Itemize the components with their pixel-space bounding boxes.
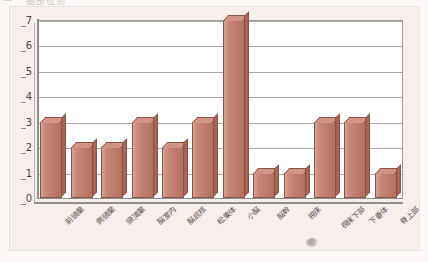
chart-title: 脳部位別 bbox=[26, 0, 66, 7]
bar-side-face bbox=[92, 138, 97, 197]
y-axis-tick-label: 6 bbox=[26, 41, 32, 51]
bar-side-face bbox=[396, 164, 401, 197]
y-axis-tick-label: 0 bbox=[26, 194, 32, 204]
x-axis-label-脳底核: 脳底核 bbox=[186, 206, 207, 226]
y-axis-tick-mark bbox=[21, 128, 26, 129]
title-strip: 脳部位別 bbox=[0, 0, 428, 7]
y-axis-tick-mark bbox=[21, 153, 26, 154]
y-axis-tick-label: 3 bbox=[26, 118, 32, 128]
x-axis-label-頭頂葉: 頭頂葉 bbox=[125, 206, 146, 226]
y-axis-tick-mark bbox=[21, 102, 26, 103]
y-axis-tick-mark bbox=[21, 51, 26, 52]
bar-side-face bbox=[335, 113, 340, 197]
y-axis-tick-mark bbox=[21, 26, 26, 27]
bar-脳幹 bbox=[253, 173, 275, 198]
bar-side-face bbox=[183, 138, 188, 197]
x-axis-label-小脳: 小脳 bbox=[245, 206, 260, 221]
y-axis-tick-mark bbox=[21, 179, 26, 180]
bar-頭頂葉 bbox=[101, 147, 123, 198]
bar-視床下部 bbox=[314, 122, 336, 198]
gridline bbox=[38, 21, 402, 22]
legend-swatch bbox=[4, 0, 12, 1]
y-axis-tick-mark bbox=[21, 77, 26, 78]
bar-前頭葉 bbox=[40, 122, 62, 198]
bar-side-face bbox=[244, 11, 249, 197]
bar-視床 bbox=[284, 173, 306, 198]
gridline bbox=[38, 46, 402, 47]
x-axis-back-line bbox=[37, 198, 403, 199]
gridline bbox=[38, 72, 402, 73]
x-axis-label-視床: 視床 bbox=[306, 206, 321, 221]
x-axis-label-前頭葉: 前頭葉 bbox=[64, 206, 85, 226]
bar-側頭葉 bbox=[71, 147, 93, 198]
plot-area: 01234567 bbox=[38, 20, 403, 198]
x-axis-label-松果体: 松果体 bbox=[216, 206, 237, 226]
bar-side-face bbox=[274, 164, 279, 197]
y-axis-tick-label: 4 bbox=[26, 92, 32, 102]
bar-脳室内 bbox=[132, 122, 154, 198]
y-axis-tick-label: 1 bbox=[26, 169, 32, 179]
x-axis-label-脳室内: 脳室内 bbox=[156, 206, 177, 226]
bar-脳底核 bbox=[162, 147, 184, 198]
y-axis-back-line bbox=[34, 23, 35, 203]
bar-side-face bbox=[305, 164, 310, 197]
gridline bbox=[38, 97, 402, 98]
x-axis-label-下垂体: 下垂体 bbox=[368, 206, 389, 226]
y-axis-tick-mark bbox=[21, 204, 26, 205]
bar-松果体 bbox=[192, 122, 214, 198]
x-axis-label-側頭葉: 側頭葉 bbox=[95, 206, 116, 226]
bar-side-face bbox=[153, 113, 158, 197]
y-axis bbox=[37, 19, 39, 199]
bar-side-face bbox=[122, 138, 127, 197]
bar-side-face bbox=[213, 113, 218, 197]
y-axis-tick-label: 2 bbox=[26, 143, 32, 153]
x-axis bbox=[34, 202, 403, 204]
scan-artifact bbox=[306, 238, 319, 247]
bar-小脳 bbox=[223, 20, 245, 198]
bar-side-face bbox=[365, 113, 370, 197]
y-axis-tick-label: 7 bbox=[26, 16, 32, 26]
x-axis-label-脳幹: 脳幹 bbox=[275, 206, 290, 221]
figure-panel: 01234567 前頭葉側頭葉頭頂葉脳室内脳底核松果体小脳脳幹視床視床下部下垂体… bbox=[10, 7, 419, 250]
x-axis-label-視床下部: 視床下部 bbox=[340, 206, 366, 230]
chart-screenshot: 脳部位別 01234567 前頭葉側頭葉頭頂葉脳室内脳底核松果体小脳脳幹視床視床… bbox=[0, 0, 428, 262]
x-axis-label-脊上部: 脊上部 bbox=[399, 206, 420, 226]
y-axis-tick-label: 5 bbox=[26, 67, 32, 77]
bar-脊上部 bbox=[375, 173, 397, 198]
bar-side-face bbox=[61, 113, 66, 197]
bar-下垂体 bbox=[344, 122, 366, 198]
